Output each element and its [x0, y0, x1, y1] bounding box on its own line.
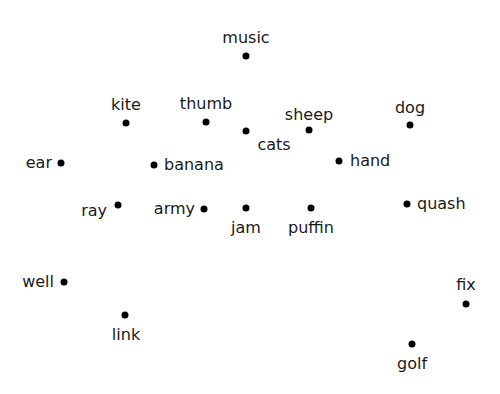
- point-dot-dog: [407, 122, 414, 129]
- point-dot-ear: [58, 160, 65, 167]
- point-label-ear: ear: [26, 155, 52, 171]
- point-dot-kite: [123, 120, 130, 127]
- word-scatter-canvas: music kite thumb cats sheep dog ear bana…: [0, 0, 500, 394]
- point-label-hand: hand: [350, 153, 390, 169]
- point-label-banana: banana: [164, 157, 224, 173]
- point-dot-music: [243, 53, 250, 60]
- point-label-link: link: [112, 327, 140, 343]
- point-label-quash: quash: [417, 196, 466, 212]
- point-label-thumb: thumb: [180, 96, 232, 112]
- point-label-army: army: [154, 201, 195, 217]
- point-dot-golf: [409, 341, 416, 348]
- point-label-golf: golf: [397, 356, 427, 372]
- point-dot-fix: [463, 301, 470, 308]
- point-label-ray: ray: [81, 203, 107, 219]
- point-dot-banana: [151, 162, 158, 169]
- point-dot-army: [201, 206, 208, 213]
- point-dot-thumb: [203, 119, 210, 126]
- point-label-dog: dog: [395, 100, 425, 116]
- point-dot-link: [122, 312, 129, 319]
- point-dot-jam: [243, 205, 250, 212]
- point-dot-puffin: [308, 205, 315, 212]
- point-dot-cats: [243, 128, 250, 135]
- point-label-cats: cats: [257, 137, 290, 153]
- point-dot-hand: [336, 158, 343, 165]
- point-dot-quash: [404, 201, 411, 208]
- point-label-fix: fix: [456, 277, 476, 293]
- point-label-puffin: puffin: [288, 220, 334, 236]
- point-dot-well: [61, 279, 68, 286]
- point-label-jam: jam: [231, 220, 261, 236]
- point-dot-sheep: [306, 127, 313, 134]
- point-label-well: well: [22, 274, 54, 290]
- point-label-kite: kite: [111, 97, 141, 113]
- point-dot-ray: [115, 202, 122, 209]
- point-label-music: music: [222, 30, 269, 46]
- point-label-sheep: sheep: [285, 107, 333, 123]
